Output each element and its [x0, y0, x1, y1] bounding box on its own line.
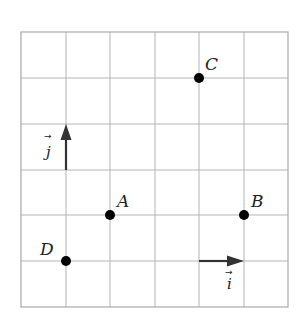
point-label-C: C	[205, 54, 218, 74]
point-C: C	[194, 54, 218, 83]
point-B: B	[239, 191, 264, 220]
point-label-D: D	[39, 239, 54, 259]
point-label-A: A	[115, 191, 129, 211]
coordinate-grid-diagram: → j → i A B C D	[0, 0, 299, 329]
point-dot	[61, 256, 71, 266]
point-A: A	[105, 191, 129, 220]
vector-arrow-mark: →	[44, 131, 52, 141]
point-dot	[239, 210, 249, 220]
vector-j: → j	[43, 124, 72, 170]
arrow-right-icon	[227, 256, 244, 267]
vector-i-label: i	[227, 275, 232, 293]
grid-lines	[21, 32, 288, 307]
vector-i: → i	[199, 256, 244, 294]
point-dot	[105, 210, 115, 220]
arrow-up-icon	[61, 124, 72, 140]
point-label-B: B	[250, 191, 264, 211]
point-dot	[194, 73, 204, 83]
vector-j-label: j	[43, 143, 51, 161]
